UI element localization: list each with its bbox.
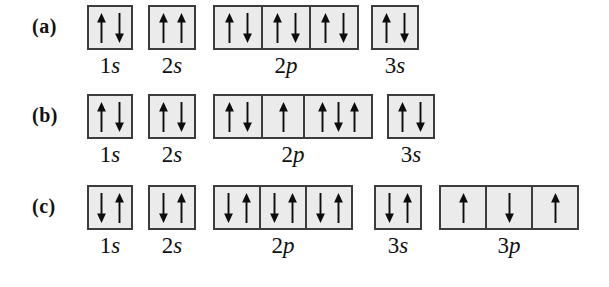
orbital-label-1s: 1s — [87, 53, 133, 79]
spin-up-arrow-icon — [224, 102, 235, 132]
spin-up-arrow-icon — [458, 193, 469, 223]
spin-down-arrow-icon — [158, 193, 169, 223]
orbital-box — [148, 5, 196, 50]
orbital-shell-number: 2 — [275, 53, 287, 78]
spin-down-arrow-icon — [290, 13, 301, 43]
orbital-box — [371, 5, 419, 50]
spin-down-arrow-icon — [176, 102, 187, 132]
orbital-box — [387, 94, 435, 139]
orbital-group-1s — [87, 5, 133, 50]
spin-up-arrow-icon — [176, 13, 187, 43]
orbital-shell-number: 3 — [385, 53, 397, 78]
orbital-group-2s — [148, 185, 196, 230]
orbital-label-1s: 1s — [87, 233, 133, 259]
config-row-b: (b)1s2s2p3s — [0, 94, 609, 174]
spin-up-arrow-icon — [381, 13, 392, 43]
orbital-box — [261, 5, 311, 50]
spin-down-arrow-icon — [114, 102, 125, 132]
orbital-subshell-letter: s — [173, 142, 182, 167]
spin-up-arrow-icon — [317, 102, 328, 132]
orbital-label-2s: 2s — [148, 142, 196, 168]
row-label: (b) — [32, 104, 58, 127]
spin-up-arrow-icon — [176, 193, 187, 223]
orbital-shell-number: 1 — [100, 142, 112, 167]
orbital-box — [87, 185, 133, 230]
orbital-shell-number: 2 — [162, 53, 174, 78]
spin-up-arrow-icon — [287, 193, 298, 223]
orbital-box — [439, 185, 487, 230]
spin-up-arrow-icon — [278, 102, 289, 132]
config-row-c: (c)1s2s2p3s3p — [0, 185, 609, 265]
orbital-diagram-figure: (a)1s2s2p3s(b)1s2s2p3s(c)1s2s2p3s3p — [0, 0, 609, 287]
orbital-label-3s: 3s — [387, 142, 435, 168]
orbital-shell-number: 3 — [388, 233, 400, 258]
spin-up-arrow-icon — [114, 193, 125, 223]
row-label: (a) — [32, 15, 57, 38]
orbital-label-3p: 3p — [439, 233, 579, 259]
orbital-box — [303, 94, 373, 139]
orbital-group-3s — [387, 94, 435, 139]
spin-up-arrow-icon — [349, 102, 360, 132]
orbital-group-1s — [87, 94, 133, 139]
orbital-group-3p — [439, 185, 579, 230]
orbital-group-2p — [213, 94, 373, 139]
orbital-subshell-letter: s — [412, 142, 421, 167]
orbital-shell-number: 3 — [401, 142, 413, 167]
orbital-shell-number: 2 — [272, 233, 284, 258]
spin-up-arrow-icon — [550, 193, 561, 223]
orbital-subshell-letter: s — [399, 233, 408, 258]
orbital-label-3s: 3s — [371, 53, 419, 79]
orbital-subshell-letter: p — [293, 142, 305, 167]
orbital-shell-number: 2 — [282, 142, 294, 167]
orbital-subshell-letter: p — [283, 233, 295, 258]
spin-down-arrow-icon — [315, 193, 326, 223]
spin-down-arrow-icon — [384, 193, 395, 223]
orbital-subshell-letter: s — [111, 142, 120, 167]
spin-down-arrow-icon — [96, 193, 107, 223]
spin-down-arrow-icon — [504, 193, 515, 223]
spin-up-arrow-icon — [397, 102, 408, 132]
spin-up-arrow-icon — [320, 13, 331, 43]
spin-down-arrow-icon — [242, 102, 253, 132]
orbital-shell-number: 3 — [498, 233, 510, 258]
orbital-group-1s — [87, 185, 133, 230]
orbital-box — [309, 5, 359, 50]
orbital-box — [213, 94, 263, 139]
config-row-a: (a)1s2s2p3s — [0, 5, 609, 85]
spin-down-arrow-icon — [269, 193, 280, 223]
spin-down-arrow-icon — [333, 102, 344, 132]
spin-up-arrow-icon — [224, 13, 235, 43]
orbital-group-2s — [148, 5, 196, 50]
spin-up-arrow-icon — [402, 193, 413, 223]
spin-down-arrow-icon — [223, 193, 234, 223]
orbital-shell-number: 2 — [162, 142, 174, 167]
orbital-label-2p: 2p — [213, 233, 353, 259]
spin-down-arrow-icon — [114, 13, 125, 43]
orbital-shell-number: 1 — [100, 233, 112, 258]
orbital-group-2s — [148, 94, 196, 139]
orbital-box — [213, 5, 263, 50]
orbital-label-1s: 1s — [87, 142, 133, 168]
orbital-group-3s — [371, 5, 419, 50]
spin-up-arrow-icon — [158, 102, 169, 132]
orbital-box — [374, 185, 422, 230]
orbital-box — [485, 185, 533, 230]
orbital-group-3s — [374, 185, 422, 230]
spin-up-arrow-icon — [96, 13, 107, 43]
spin-up-arrow-icon — [241, 193, 252, 223]
orbital-subshell-letter: p — [509, 233, 521, 258]
spin-down-arrow-icon — [242, 13, 253, 43]
orbital-subshell-letter: s — [396, 53, 405, 78]
spin-up-arrow-icon — [333, 193, 344, 223]
spin-up-arrow-icon — [96, 102, 107, 132]
orbital-box — [87, 5, 133, 50]
orbital-label-3s: 3s — [374, 233, 422, 259]
spin-up-arrow-icon — [158, 13, 169, 43]
orbital-label-2s: 2s — [148, 53, 196, 79]
orbital-subshell-letter: s — [173, 233, 182, 258]
spin-down-arrow-icon — [399, 13, 410, 43]
orbital-box — [148, 185, 196, 230]
orbital-group-2p — [213, 185, 353, 230]
orbital-box — [261, 94, 305, 139]
orbital-subshell-letter: s — [173, 53, 182, 78]
